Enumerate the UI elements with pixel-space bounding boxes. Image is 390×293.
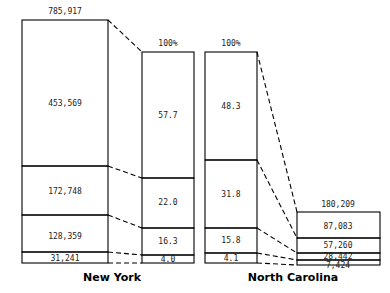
stacked-bar-chart: 785,917 453,569 172,748 128,359 31,241 1… bbox=[0, 0, 390, 293]
bar2-segment-1-label: 57.7 bbox=[158, 111, 177, 120]
bar1-total-label: 785,917 bbox=[48, 7, 82, 16]
group-label-north-carolina: North Carolina bbox=[248, 271, 338, 284]
bar2-segment-4-label: 4.0 bbox=[161, 255, 176, 264]
bar1-segment-2-label: 172,748 bbox=[48, 187, 82, 196]
bar3-segment-2-label: 31.8 bbox=[221, 190, 240, 199]
bar2-segment-3-label: 16.3 bbox=[158, 237, 177, 246]
group-label-new-york: New York bbox=[83, 271, 142, 284]
bar4-segment-2-label: 57,260 bbox=[324, 241, 353, 250]
bar1-segment-1-label: 453,569 bbox=[48, 99, 82, 108]
bar4-segment-1-label: 87,083 bbox=[324, 222, 353, 231]
bar2-total-label: 100% bbox=[158, 39, 177, 48]
bar1-segment-4-label: 31,241 bbox=[51, 254, 80, 263]
bar4-segment-3-label: 28,442 bbox=[324, 252, 353, 261]
bar3-total-label: 100% bbox=[221, 39, 240, 48]
bar1-segment-3-label: 128,359 bbox=[48, 232, 82, 241]
bar3-segment-1-label: 48.3 bbox=[221, 102, 240, 111]
bar2-segment-2-label: 22.0 bbox=[158, 198, 177, 207]
bar4-total-label: 180,209 bbox=[321, 200, 355, 209]
bar3-segment-3-label: 15.8 bbox=[221, 236, 240, 245]
bar3-segment-4-label: 4.1 bbox=[224, 254, 239, 263]
bar4-segment-4-label: 7,424 bbox=[326, 261, 350, 270]
